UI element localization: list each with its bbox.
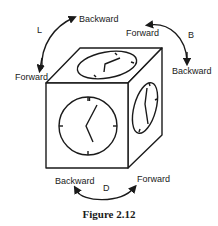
- axis-label-B: B: [188, 30, 194, 40]
- label-B-backward: Backward: [172, 66, 212, 76]
- label-D-forward: Forward: [137, 174, 170, 184]
- axis-label-D: D: [103, 183, 110, 193]
- label-L-forward: Forward: [15, 72, 48, 82]
- axis-label-L: L: [37, 25, 42, 35]
- figure-caption: Figure 2.12: [83, 208, 136, 220]
- label-D-backward: Backward: [55, 176, 95, 186]
- clock-cube: [46, 47, 162, 168]
- cube-rotation-diagram: L Backward Forward Forward B Backward: [0, 0, 218, 226]
- label-B-forward: Forward: [126, 28, 159, 38]
- label-L-backward: Backward: [79, 14, 119, 24]
- rotation-D: Backward D Forward: [55, 174, 170, 200]
